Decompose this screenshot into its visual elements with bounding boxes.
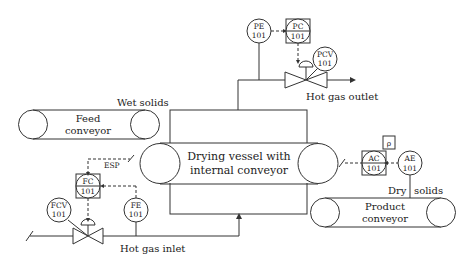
fcv-num: 101 — [52, 210, 66, 219]
fcv-valve — [68, 219, 103, 244]
fcv-tag: FCV — [51, 201, 68, 210]
pe-tag: PE — [254, 22, 265, 31]
hot-gas-inlet-label: Hot gas inlet — [120, 243, 185, 254]
solids-label: solids — [414, 185, 443, 196]
pcv-num: 101 — [318, 59, 332, 68]
fc-tag: FC — [83, 177, 94, 186]
ae-tag: AE — [404, 154, 416, 163]
hot-gas-outlet-label: Hot gas outlet — [306, 91, 378, 102]
pid-diagram: Feed conveyor Wet solids Drying vessel w… — [0, 0, 466, 262]
ac-tag: AC — [367, 154, 379, 163]
esp-label: ESP — [104, 161, 120, 170]
pc-tag: PC — [293, 22, 304, 31]
dry-label: Dry — [388, 185, 407, 196]
rho-label: ρ — [387, 139, 392, 148]
drying-vessel-label-1: Drying vessel with — [187, 150, 290, 163]
fc-num: 101 — [81, 187, 95, 196]
ac-num: 101 — [367, 164, 381, 173]
drying-vessel-label-2: internal conveyor — [190, 164, 289, 177]
fe-tag: FE — [131, 201, 142, 210]
pc-num: 101 — [291, 32, 305, 41]
pe-num: 101 — [252, 31, 266, 40]
feed-conveyor-label-1: Feed — [76, 113, 101, 124]
ae-num: 101 — [403, 164, 417, 173]
feed-conveyor-label-2: conveyor — [65, 125, 111, 136]
product-conveyor-label-1: Product — [365, 201, 405, 212]
pcv-tag: PCV — [317, 50, 334, 59]
product-conveyor-label-2: conveyor — [362, 213, 408, 224]
fe-num: 101 — [129, 210, 143, 219]
wet-solids-label: Wet solids — [117, 97, 169, 108]
